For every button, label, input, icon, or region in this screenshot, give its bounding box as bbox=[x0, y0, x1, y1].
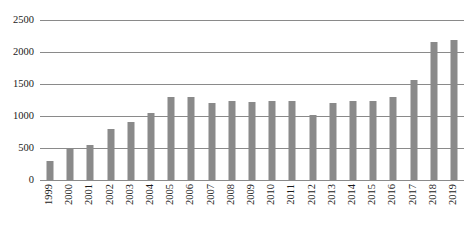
bar-chart: 05001000150020002500 1999200020012002200… bbox=[0, 0, 470, 226]
x-axis-tick-label: 2004 bbox=[145, 184, 156, 205]
x-axis-labels: 1999200020012002200320042005200620072008… bbox=[40, 0, 464, 226]
y-axis-tick-label: 0 bbox=[29, 175, 34, 186]
x-axis-tick-label: 2016 bbox=[387, 184, 398, 205]
x-axis-tick-label: 2001 bbox=[84, 184, 95, 205]
x-axis-tick-label: 2011 bbox=[286, 184, 297, 205]
x-axis-tick-label: 1999 bbox=[44, 184, 55, 205]
x-axis-tick-label: 2000 bbox=[64, 184, 75, 205]
x-axis-tick-label: 2018 bbox=[428, 184, 439, 205]
y-axis-tick-label: 500 bbox=[18, 143, 34, 154]
x-axis-tick-label: 2013 bbox=[327, 184, 338, 205]
x-axis-tick-label: 2015 bbox=[367, 184, 378, 205]
x-axis-tick-label: 2019 bbox=[448, 184, 459, 205]
x-axis-tick-label: 2006 bbox=[185, 184, 196, 205]
x-axis-tick-label: 2014 bbox=[347, 184, 358, 205]
x-axis-tick-label: 2017 bbox=[408, 184, 419, 205]
x-axis-tick-label: 2003 bbox=[125, 184, 136, 205]
y-axis-tick-label: 2000 bbox=[13, 47, 34, 58]
x-axis-tick-label: 2007 bbox=[206, 184, 217, 205]
x-axis-tick-label: 2012 bbox=[307, 184, 318, 205]
x-axis-tick-label: 2002 bbox=[105, 184, 116, 205]
y-axis-tick-label: 1000 bbox=[13, 111, 34, 122]
y-axis-tick-label: 1500 bbox=[13, 79, 34, 90]
x-axis-tick-label: 2008 bbox=[226, 184, 237, 205]
y-axis-tick-label: 2500 bbox=[13, 15, 34, 26]
x-axis-tick-label: 2009 bbox=[246, 184, 257, 205]
x-axis-tick-label: 2005 bbox=[165, 184, 176, 205]
x-axis-tick-label: 2010 bbox=[266, 184, 277, 205]
